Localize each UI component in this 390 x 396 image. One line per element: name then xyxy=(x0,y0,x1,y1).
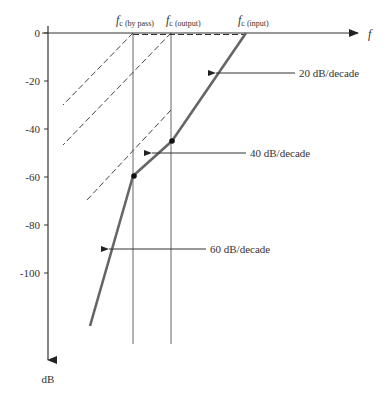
asymptote-bypass xyxy=(63,33,133,105)
y-tick-minus20: -20 xyxy=(25,75,40,87)
y-tick-minus40: -40 xyxy=(25,123,40,135)
overall-response xyxy=(90,33,246,326)
annotation-20db: 20 dB/decade xyxy=(299,67,359,79)
y-tick-minus60: -60 xyxy=(25,171,40,183)
x-axis-label: f xyxy=(368,27,373,41)
y-tick-minus100: -100 xyxy=(20,267,41,279)
y-axis-label: dB xyxy=(42,373,55,385)
y-tick-0: 0 xyxy=(35,27,41,39)
fc-output-label: fc(output) xyxy=(166,13,201,28)
breakpoint-bypass xyxy=(131,173,137,179)
svg-text:fc(by pass): fc(by pass) xyxy=(116,13,154,28)
annotation-40db: 40 dB/decade xyxy=(250,147,310,159)
fc-bypass-label: fc(by pass) xyxy=(116,13,154,28)
bode-diagram: 0 -20 -40 -60 -80 -100 f dB fc(by pass) … xyxy=(0,0,390,396)
svg-text:fc(output): fc(output) xyxy=(166,13,201,28)
annotation-60db: 60 dB/decade xyxy=(210,243,270,255)
breakpoint-output xyxy=(169,138,175,144)
y-tick-minus80: -80 xyxy=(25,219,40,231)
svg-text:fc(input): fc(input) xyxy=(238,13,269,28)
fc-input-label: fc(input) xyxy=(238,13,269,28)
